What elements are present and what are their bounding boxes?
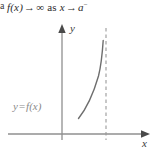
y-axis-label: y [70,22,75,34]
x-axis-label: x [142,137,147,149]
plot-canvas [0,0,155,151]
curve-equation-label: y=f(x) [13,100,41,112]
function-curve [79,41,104,119]
curve-label-fx: f(x) [26,100,41,112]
y-axis-arrowhead [58,24,65,33]
curve-label-equals: = [18,100,26,112]
limit-asymptote-figure: f(x)→∞ as x→a− y x a y=f(x) [0,0,155,151]
